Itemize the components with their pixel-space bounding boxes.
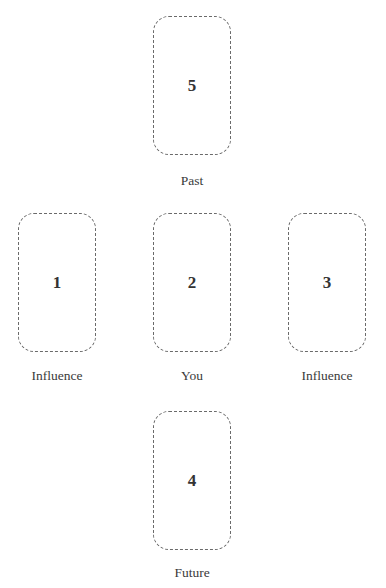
card-slot-4: 4 [153,411,231,550]
card-number: 1 [53,273,62,293]
card-label-you: You [127,368,257,384]
card-slot-5: 5 [153,16,231,155]
card-slot-2: 2 [153,213,231,352]
card-label-future: Future [127,565,257,581]
card-label-influence-right: Influence [262,368,386,384]
card-label-past: Past [127,173,257,189]
card-number: 3 [323,273,332,293]
card-slot-1: 1 [18,213,96,352]
card-label-influence-left: Influence [0,368,122,384]
card-slot-3: 3 [288,213,366,352]
card-number: 5 [188,76,197,96]
card-number: 4 [188,471,197,491]
card-number: 2 [188,273,197,293]
